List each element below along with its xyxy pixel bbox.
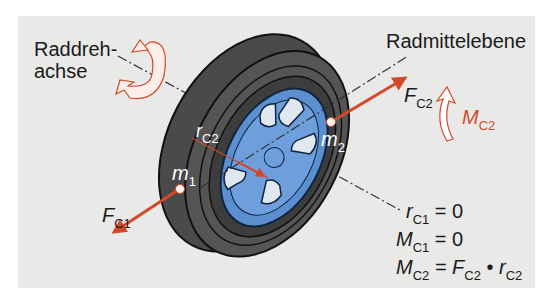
wheel-axis-label-line2: achse xyxy=(34,60,117,82)
symbol-fc1: FC1 xyxy=(102,204,131,229)
wheel-axis-label-line1: Raddreh- xyxy=(34,38,117,60)
moment-mc2-arrow-icon xyxy=(437,87,455,141)
wheel-axis-label: Raddreh- achse xyxy=(34,38,117,82)
symbol-fc2: FC2 xyxy=(404,84,433,109)
mass-m2-point xyxy=(327,118,336,127)
equation-mc1: MC1 = 0 xyxy=(396,228,463,253)
equation-mc2: MC2 = FC2 • rC2 xyxy=(396,256,522,281)
symbol-rc2: rC2 xyxy=(196,120,219,144)
symbol-mc2: MC2 xyxy=(462,106,495,131)
center-plane-label: Radmittelebene xyxy=(386,30,526,52)
rotation-arrow-icon xyxy=(116,40,165,99)
symbol-m2: m2 xyxy=(321,128,345,153)
equation-rc1: rC1 = 0 xyxy=(406,200,463,225)
symbol-m1: m1 xyxy=(172,162,196,187)
